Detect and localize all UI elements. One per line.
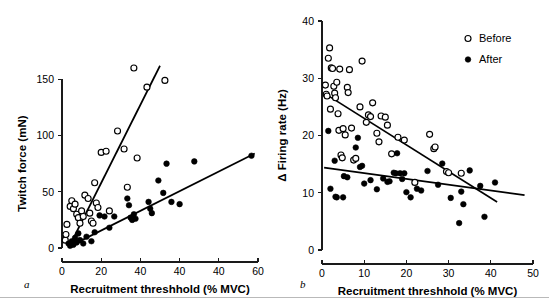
data-point [353,155,359,161]
data-point [408,195,414,201]
data-point [382,114,388,120]
data-point [334,195,340,201]
data-point [477,183,483,189]
data-point [162,77,168,83]
data-point [334,79,340,85]
y-tick-label-b-3: 30 [302,72,314,84]
data-point [90,220,96,226]
data-point [84,234,90,240]
data-point [327,45,333,51]
data-point [427,131,433,137]
data-point [387,179,393,185]
y-tick-label-b-2: 20 [302,129,314,141]
data-point [467,168,473,174]
panel-caption-b: b [300,278,306,290]
data-point [345,90,351,96]
data-point [446,170,452,176]
data-point [111,214,117,220]
data-point [456,220,462,226]
fit-line-b-before [324,93,497,202]
data-point [87,210,93,216]
data-point [149,210,155,216]
data-point [80,214,86,220]
x-tick-label-b-2: 20 [401,267,413,279]
data-point [425,168,431,174]
legend: BeforeAfter [465,32,511,65]
data-point [146,199,152,205]
data-point [418,188,424,194]
data-point [376,139,382,145]
data-point [337,66,343,72]
data-point [374,130,380,136]
data-point [458,189,464,195]
data-point [439,161,445,167]
data-point [355,135,361,141]
data-point [333,95,339,101]
y-axis-title-b: Δ Firing rate (Hz) [276,89,288,182]
data-point [63,232,69,238]
data-point [92,180,98,186]
data-point [461,201,467,207]
scientific-figure: 05010015002040404060Recruitment threshho… [0,0,557,305]
x-tick-label-b-0: 0 [319,267,325,279]
data-point [80,241,86,247]
data-point [342,132,348,138]
legend-label-before: Before [479,32,511,44]
legend-marker-before [465,36,471,42]
data-point [326,128,332,134]
data-point [357,104,363,110]
x-tick-label-a-5: 60 [252,265,264,277]
data-point [359,163,365,169]
x-axis-title-a: Recruitment threshhold (% MVC) [70,283,250,295]
data-point [340,195,346,201]
data-point [72,201,78,207]
data-point [458,170,464,176]
data-point [160,190,166,196]
data-point [64,221,70,227]
y-tick-label-b-4: 40 [302,15,314,27]
data-point [124,184,130,190]
data-point [332,158,338,164]
data-point [126,202,132,208]
data-point [164,161,170,167]
data-point [340,126,346,132]
y-tick-label-a-2: 100 [36,129,54,141]
data-point [435,182,441,188]
data-point [492,180,498,186]
data-point [89,238,95,244]
y-tick-label-a-3: 150 [36,73,54,85]
data-point [107,225,113,231]
data-point [482,214,488,220]
data-point [368,114,374,120]
data-point [359,58,365,64]
panel-caption-a: a [24,278,30,290]
data-point [92,229,98,235]
x-axis-title-b: Recruitment threshhold (% MVC) [338,285,518,297]
data-point [404,189,410,195]
x-tick-label-a-2: 40 [135,265,147,277]
data-point [432,144,438,150]
y-tick-label-a-0: 0 [48,242,54,254]
data-point [169,199,175,205]
data-point [395,134,401,140]
x-tick-label-a-3: 40 [174,265,186,277]
data-point [76,231,82,237]
data-point [115,128,121,134]
figure-container: 05010015002040404060Recruitment threshho… [0,0,557,305]
data-point [134,155,140,161]
data-point [448,195,454,201]
data-point [339,155,345,161]
x-tick-label-a-4: 40 [213,265,225,277]
data-point [401,137,407,143]
data-point [77,220,83,226]
data-point [328,186,334,192]
y-tick-label-b-0: 0 [308,244,314,256]
x-tick-label-b-4: 40 [485,267,497,279]
data-point [399,176,405,182]
y-tick-label-a-1: 50 [42,186,54,198]
data-point [106,208,112,214]
x-tick-label-b-5: 50 [527,267,539,279]
data-point [322,82,328,88]
data-point [121,146,127,152]
data-point [394,150,400,156]
